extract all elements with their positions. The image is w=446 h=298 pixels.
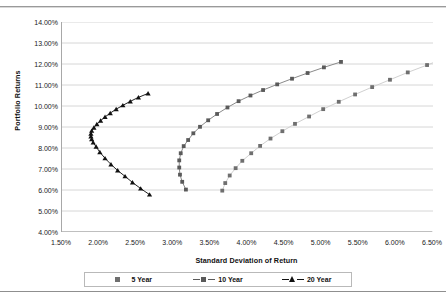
legend-label-20-year: 20 Year: [307, 276, 331, 283]
y-axis-tick: 14.00%: [18, 19, 58, 26]
x-axis-title: Standard Deviation of Return: [61, 256, 432, 265]
x-axis-tick: 5.00%: [301, 239, 341, 246]
legend-label-10-year: 10 Year: [218, 276, 242, 283]
x-axis-tick: 2.50%: [115, 239, 155, 246]
x-axis-tick: 1.50%: [41, 239, 81, 246]
chart-legend: 5 Year 10 Year 20 Year: [84, 272, 352, 287]
x-axis-tick-labels: 1.50%2.00%2.50%3.00%3.50%4.00%4.50%5.00%…: [0, 239, 446, 251]
legend-marker-10-year: [193, 275, 215, 284]
chart-figure: Portfolio Returns 14.00%13.00%12.00%11.0…: [0, 0, 446, 298]
x-axis-tick: 6.00%: [375, 239, 415, 246]
legend-marker-5-year: [107, 275, 129, 284]
y-axis-tick: 8.00%: [18, 145, 58, 152]
chart-canvas: [62, 22, 433, 232]
bottom-rule: [0, 291, 446, 292]
y-axis-tick: 10.00%: [18, 103, 58, 110]
x-axis-tick: 5.50%: [338, 239, 378, 246]
legend-item-10-year[interactable]: 10 Year: [174, 275, 263, 284]
legend-marker-20-year: [282, 275, 304, 284]
y-axis-tick: 4.00%: [18, 229, 58, 236]
y-axis-tick: 6.00%: [18, 187, 58, 194]
y-axis-tick: 12.00%: [18, 61, 58, 68]
y-axis-tick: 9.00%: [18, 124, 58, 131]
legend-label-5-year: 5 Year: [132, 276, 153, 283]
x-axis-tick: 4.50%: [264, 239, 304, 246]
y-axis-tick: 7.00%: [18, 166, 58, 173]
x-axis-tick: 3.50%: [189, 239, 229, 246]
legend-item-20-year[interactable]: 20 Year: [262, 275, 351, 284]
x-axis-tick: 4.00%: [227, 239, 267, 246]
y-axis-tick: 5.00%: [18, 208, 58, 215]
x-axis-tick: 6.50%: [412, 239, 446, 246]
y-axis-tick: 13.00%: [18, 40, 58, 47]
x-axis-tick: 2.00%: [78, 239, 118, 246]
plot-area: [61, 22, 432, 232]
legend-item-5-year[interactable]: 5 Year: [85, 275, 174, 284]
top-rule-secondary: [0, 7, 446, 8]
y-axis-tick-labels: 14.00%13.00%12.00%11.00%10.00%9.00%8.00%…: [14, 0, 58, 298]
x-axis-tick: 3.00%: [152, 239, 192, 246]
y-axis-tick: 11.00%: [18, 82, 58, 89]
